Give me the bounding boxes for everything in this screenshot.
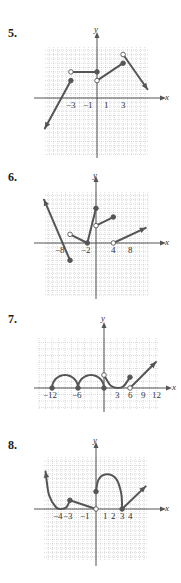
- tick-label: −4: [53, 511, 63, 521]
- closed-point-icon: [94, 489, 99, 494]
- tick-label: 1: [103, 511, 108, 521]
- graph-8: [0, 0, 181, 583]
- y-axis-label: y: [93, 435, 97, 445]
- closed-point-icon: [68, 498, 73, 503]
- x-axis-label: x: [165, 503, 169, 513]
- tick-label: −3: [63, 511, 73, 521]
- open-point-icon: [94, 507, 99, 512]
- problem-8: 8. y x −4 −3 −1 1 2 3 4: [0, 0, 181, 583]
- tick-label: −1: [80, 511, 90, 521]
- tick-label: 2: [111, 511, 116, 521]
- tick-label: 3: [120, 511, 125, 521]
- tick-label: 4: [128, 511, 133, 521]
